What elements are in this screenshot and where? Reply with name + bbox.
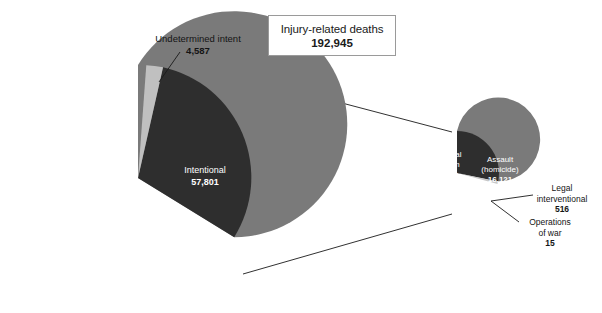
label-self-harm-line1: Intentional	[412, 150, 474, 160]
label-war-value: 15	[510, 238, 590, 249]
label-self-harm-line3: (suicide)	[412, 170, 474, 180]
label-legal-line1: Legal	[524, 183, 600, 194]
label-legal-value: 516	[524, 204, 600, 215]
label-war-line2: of war	[510, 228, 590, 239]
label-self-harm-line2: self-harm	[412, 160, 474, 170]
label-assault: Assault (homicide) 16,121	[472, 155, 528, 185]
chart-title-box: Injury-related deaths 192,945	[268, 15, 396, 56]
label-undetermined-value: 4,587	[133, 45, 263, 57]
label-intentional-line1: Intentional	[150, 165, 260, 177]
label-assault-line2: (homicide)	[472, 165, 528, 175]
label-self-harm-value: 41,149	[412, 180, 474, 190]
label-undetermined-intent: Undetermined intent 4,587	[133, 33, 263, 56]
injury-deaths-pie-figure: Injury-related deaths 192,945 Unintentio…	[0, 0, 602, 313]
label-assault-line1: Assault	[472, 155, 528, 165]
label-assault-value: 16,121	[472, 175, 528, 185]
label-unintentional-line2: (accidental)	[22, 164, 140, 176]
label-unintentional: Unintentional (accidental) 130,557	[22, 152, 140, 187]
chart-title-label: Injury-related deaths	[281, 22, 384, 36]
label-legal-line2: interventional	[524, 194, 600, 205]
label-intentional: Intentional 57,801	[150, 165, 260, 188]
label-intentional-value: 57,801	[150, 177, 260, 189]
label-unintentional-line1: Unintentional	[22, 152, 140, 164]
label-operations-of-war: Operations of war 15	[510, 217, 590, 249]
label-legal-intervention: Legal interventional 516	[524, 183, 600, 215]
label-unintentional-value: 130,557	[22, 175, 140, 187]
label-undetermined-line1: Undetermined intent	[133, 33, 263, 45]
chart-title-value: 192,945	[311, 36, 353, 50]
label-war-line1: Operations	[510, 217, 590, 228]
label-self-harm: Intentional self-harm (suicide) 41,149	[412, 150, 474, 190]
